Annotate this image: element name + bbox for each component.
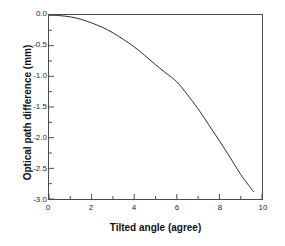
plot-area [48,14,263,200]
x-tick-label: 0 [46,204,50,212]
x-tick-label: 10 [259,204,268,212]
y-tick-label: -0.5 [33,41,47,49]
y-tick-label: 0.0 [36,10,47,18]
y-axis-title: Optical path difference (mm) [22,28,33,198]
chart-figure: Optical path difference (mm) 0.0 -0.5 -1… [0,0,285,246]
y-tick-label: -1.0 [33,72,47,80]
x-tick-label: 8 [218,204,222,212]
x-tick-label: 4 [132,204,136,212]
axis-tick-marks [49,15,262,199]
y-tick-label: -1.5 [33,103,47,111]
plot-canvas [49,15,262,199]
x-tick-label: 2 [89,204,93,212]
x-tick-label: 6 [175,204,179,212]
y-tick-label: -2.5 [33,165,47,173]
data-series-line [49,15,253,192]
y-tick-label: -2.0 [33,134,47,142]
x-axis-title: Tilted angle (agree) [48,222,263,233]
